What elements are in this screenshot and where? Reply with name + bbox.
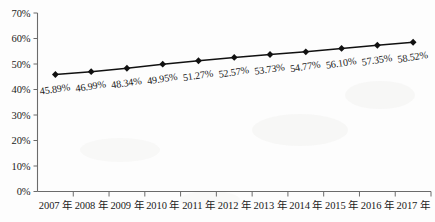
y-tick-label: 0% [17,186,31,197]
y-tick-label: 30% [12,110,31,121]
chart-canvas: 0%10%20%30%40%50%60%70% 2007 年2008 年2009… [0,0,435,222]
x-tick-label: 2016 年 [361,199,394,211]
chart-background [0,0,435,222]
x-tick-label: 2007 年 [39,199,72,211]
x-tick-label: 2013 年 [254,199,287,211]
y-tick-label: 40% [12,84,31,95]
x-tick-label: 2012 年 [218,199,251,211]
x-tick-label: 2014 年 [289,199,322,211]
x-tick-label: 2015 年 [325,199,358,211]
y-tick-label: 70% [12,8,31,19]
line-chart: 0%10%20%30%40%50%60%70% 2007 年2008 年2009… [0,0,435,222]
y-tick-label: 10% [12,161,31,172]
x-tick-label: 2009 年 [110,199,143,211]
y-tick-label: 50% [12,59,31,70]
x-axis-tick-labels: 2007 年2008 年2009 年2010 年2011 年2012 年2013… [39,199,430,211]
x-tick-label: 2011 年 [182,199,215,211]
x-tick-label: 2008 年 [75,199,108,211]
x-tick-label: 2017 年 [397,199,430,211]
x-tick-label: 2010 年 [146,199,179,211]
y-tick-label: 60% [12,33,31,44]
y-tick-label: 20% [12,135,31,146]
